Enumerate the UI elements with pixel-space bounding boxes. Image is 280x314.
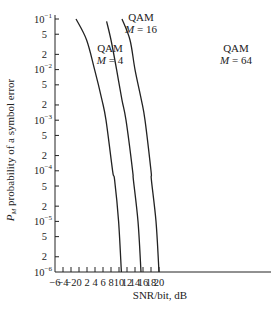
y-tick-label: 5: [42, 181, 47, 192]
svg-text:M = 64: M = 64: [219, 54, 252, 66]
y-tick-label: 2: [42, 251, 47, 262]
y-tick-label: 10−5: [34, 214, 52, 227]
y-tick-label: 10−3: [34, 113, 52, 126]
y-tick-label: 2: [42, 201, 47, 212]
y-tick-label: 5: [42, 29, 47, 40]
x-tick-label: −2: [65, 277, 76, 288]
x-tick-label: 6: [100, 277, 105, 288]
y-tick-label: 10−4: [34, 163, 52, 176]
y-tick-label: 10−1: [34, 12, 52, 25]
svg-text:M = 4: M = 4: [96, 54, 124, 66]
y-tick-label: 10−6: [34, 265, 52, 278]
x-tick-label: 20: [154, 277, 165, 288]
svg-text:QAM: QAM: [97, 42, 123, 54]
series-label-qam-16: QAMM = 16: [124, 11, 157, 35]
y-tick-label: 5: [42, 231, 47, 242]
y-tick-label: 5: [42, 79, 47, 90]
series-label-qam-4: QAMM = 4: [96, 42, 124, 66]
x-tick-label: 4: [92, 277, 98, 288]
y-tick-label: 10−2: [34, 62, 52, 75]
svg-text:M = 16: M = 16: [124, 23, 157, 35]
y-tick-label: 2: [42, 99, 47, 110]
x-axis-ticks: −6−4−202468101214161820: [49, 267, 164, 288]
y-tick-label: 2: [42, 150, 47, 161]
y-tick-label: 5: [42, 130, 47, 141]
x-axis-title: SNR/bit, dB: [133, 289, 187, 301]
series-labels: QAMM = 4QAMM = 16QAMM = 64: [96, 11, 253, 66]
y-tick-label: 2: [42, 49, 47, 60]
curve-qam-64: [122, 19, 159, 272]
x-tick-label: 2: [84, 277, 89, 288]
svg-text:QAM: QAM: [128, 11, 154, 23]
y-axis-title: PM probability of a symbol error: [4, 78, 18, 222]
series-label-qam-64: QAMM = 64: [219, 42, 252, 66]
y-axis-title-text: probability of a symbol error: [4, 78, 16, 208]
svg-text:QAM: QAM: [223, 42, 249, 54]
ser-vs-snr-chart: −6−4−202468101214161820 10−15210−25210−3…: [0, 0, 280, 314]
x-tick-label: 0: [76, 277, 81, 288]
chart-canvas: −6−4−202468101214161820 10−15210−25210−3…: [0, 0, 280, 314]
